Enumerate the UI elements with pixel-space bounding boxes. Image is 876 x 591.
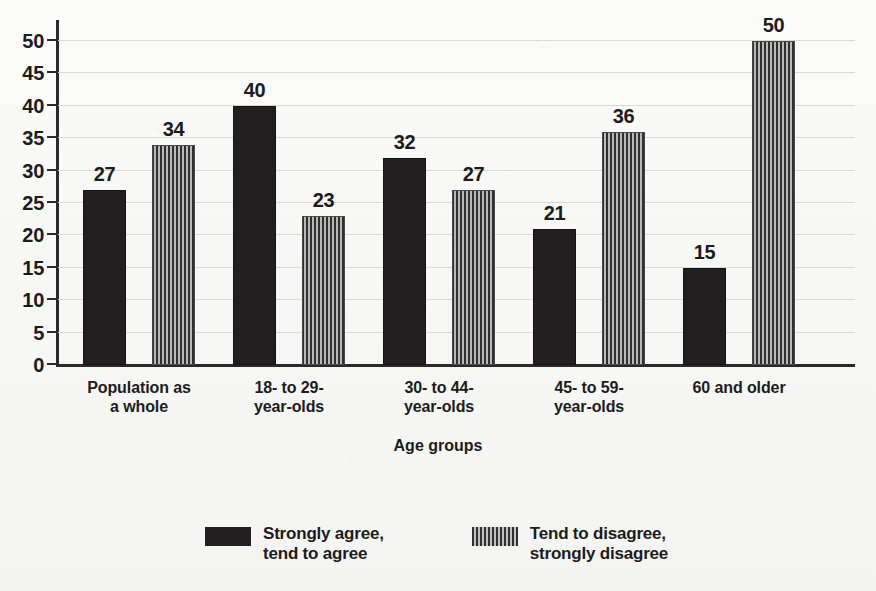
bar: 32 xyxy=(383,158,426,365)
y-axis-tick-labels: 05101520253035404550 xyxy=(0,28,44,365)
bar-group: 2734 xyxy=(83,28,195,365)
chart-legend: Strongly agree, tend to agree Tend to di… xyxy=(205,524,668,564)
striped-swatch xyxy=(472,527,518,546)
y-axis-tick xyxy=(47,136,57,138)
bar-value-label: 40 xyxy=(244,79,266,102)
chart-canvas: 05101520253035404550 2734402332272136155… xyxy=(0,0,876,591)
bar-group: 1550 xyxy=(683,28,795,365)
x-axis-category-label: Population as a whole xyxy=(53,378,225,416)
bar: 50 xyxy=(752,41,795,365)
bar-value-label: 23 xyxy=(313,189,335,212)
y-axis-tick-label: 15 xyxy=(0,256,44,279)
bar: 23 xyxy=(302,216,345,365)
y-axis-tick xyxy=(47,201,57,203)
plot-area: 05101520253035404550 2734402332272136155… xyxy=(58,28,855,365)
x-axis-title: Age groups xyxy=(0,437,876,455)
y-axis-tick xyxy=(47,363,57,365)
y-axis-tick-label: 5 xyxy=(0,321,44,344)
y-axis-tick xyxy=(47,266,57,268)
bar: 21 xyxy=(533,229,576,365)
y-axis-tick-label: 50 xyxy=(0,29,44,52)
bar: 27 xyxy=(452,190,495,365)
x-axis-category-label: 45- to 59- year-olds xyxy=(503,378,675,416)
solid-dark-swatch xyxy=(205,527,251,546)
legend-item-disagree: Tend to disagree, strongly disagree xyxy=(472,524,668,564)
y-axis-tick xyxy=(47,331,57,333)
bar: 27 xyxy=(83,190,126,365)
bar-value-label: 32 xyxy=(394,131,416,154)
y-axis-tick xyxy=(47,169,57,171)
y-axis-tick-label: 45 xyxy=(0,62,44,85)
y-axis-tick-label: 20 xyxy=(0,224,44,247)
y-axis-tick xyxy=(47,233,57,235)
bar-value-label: 21 xyxy=(544,202,566,225)
bar-group: 4023 xyxy=(233,28,345,365)
x-axis-category-label: 18- to 29- year-olds xyxy=(203,378,375,416)
y-axis-tick-label: 0 xyxy=(0,354,44,377)
x-axis-category-label: 60 and older xyxy=(653,378,825,397)
y-axis-tick-label: 30 xyxy=(0,159,44,182)
legend-item-label: Tend to disagree, strongly disagree xyxy=(530,524,668,564)
bar-value-label: 34 xyxy=(163,118,185,141)
y-axis-tick xyxy=(47,104,57,106)
bar-value-label: 15 xyxy=(694,241,716,264)
bar-value-label: 36 xyxy=(613,105,635,128)
bar: 15 xyxy=(683,268,726,365)
bar-group: 3227 xyxy=(383,28,495,365)
bar-value-label: 50 xyxy=(763,14,785,37)
bar-group: 2136 xyxy=(533,28,645,365)
legend-item-label: Strongly agree, tend to agree xyxy=(263,524,384,564)
bar: 34 xyxy=(152,145,195,365)
bar-value-label: 27 xyxy=(94,163,116,186)
y-axis-tick-label: 25 xyxy=(0,191,44,214)
y-axis-tick xyxy=(47,39,57,41)
y-axis-tick xyxy=(47,298,57,300)
legend-item-agree: Strongly agree, tend to agree xyxy=(205,524,384,564)
bar-value-label: 27 xyxy=(463,163,485,186)
x-axis-category-label: 30- to 44- year-olds xyxy=(353,378,525,416)
y-axis-tick-label: 10 xyxy=(0,289,44,312)
y-axis-tick xyxy=(47,71,57,73)
bar: 36 xyxy=(602,132,645,365)
bar: 40 xyxy=(233,106,276,365)
y-axis-tick-label: 40 xyxy=(0,94,44,117)
y-axis-tick-label: 35 xyxy=(0,127,44,150)
